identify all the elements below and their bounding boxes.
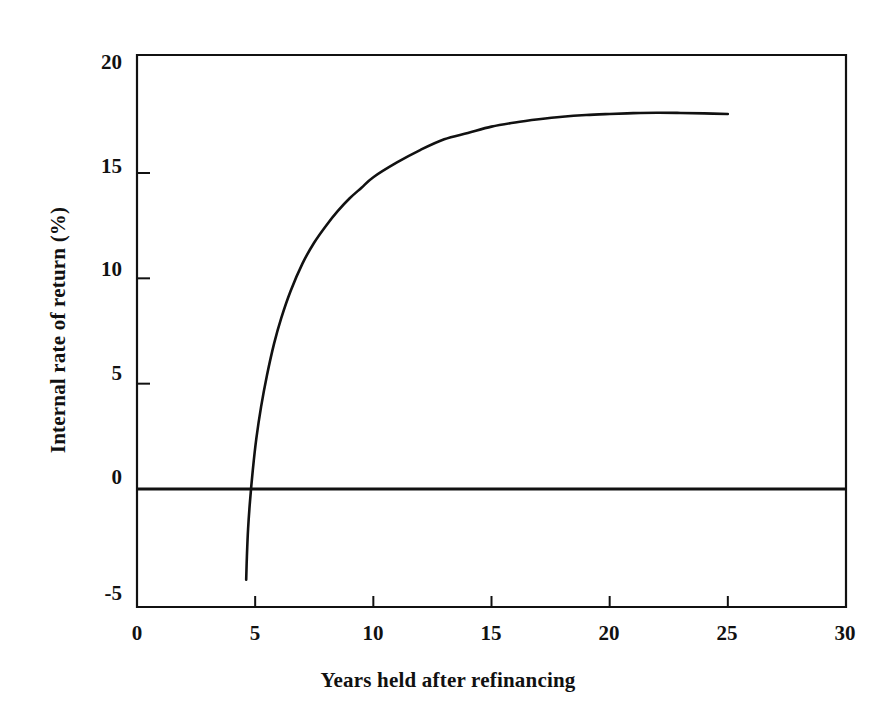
y-tick-label-neg5: -5 [62,583,122,604]
irr-data-curve [246,113,728,580]
x-tick-label-15: 15 [471,623,511,644]
axis-frame [137,55,846,607]
x-tick-label-0: 0 [117,623,157,644]
y-tick-label-15: 15 [62,156,122,177]
y-axis-ticks [137,173,150,384]
x-tick-label-5: 5 [235,623,275,644]
chart-figure: 0 5 10 15 20 25 30 20 15 10 5 0 -5 Years… [0,0,896,719]
y-tick-label-0: 0 [62,467,122,488]
y-tick-label-10: 10 [62,259,122,280]
y-tick-label-5: 5 [62,363,122,384]
y-tick-label-20: 20 [62,52,122,73]
x-tick-label-20: 20 [589,623,629,644]
y-axis-title: Internal rate of return (%) [46,50,71,610]
x-tick-label-30: 30 [825,623,865,644]
x-axis-title: Years held after refinancing [0,668,896,693]
x-tick-label-10: 10 [353,623,393,644]
chart-plot-area [0,0,896,719]
x-tick-label-25: 25 [707,623,747,644]
x-axis-ticks [255,596,728,607]
